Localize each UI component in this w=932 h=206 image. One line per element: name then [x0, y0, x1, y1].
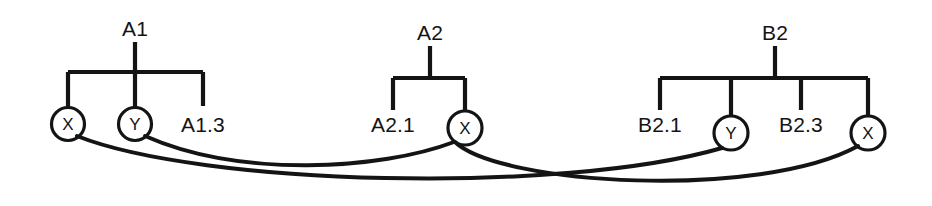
tree-root-label: A2: [417, 21, 443, 44]
tree-group-a2: A2A2.1X: [371, 21, 482, 145]
node-circle-label: Y: [129, 115, 140, 134]
diagram-canvas: A1XYA1.3A2A2.1XB2B2.1YB2.3X: [0, 0, 932, 206]
node-circle-label: X: [62, 115, 73, 134]
node-circle-label: X: [459, 119, 470, 138]
node-circle-label: X: [862, 124, 873, 143]
link-curve-a1-y-to-a2-x[interactable]: [145, 136, 454, 165]
node-circle-label: Y: [725, 124, 736, 143]
tree-group-a1: A1XYA1.3: [52, 17, 226, 141]
trees-layer: A1XYA1.3A2A2.1XB2B2.1YB2.3X: [52, 17, 886, 150]
tree-leaf-label: A1.3: [181, 113, 225, 136]
tree-leaf-label: B2.1: [638, 113, 682, 136]
tree-root-label: A1: [122, 17, 148, 40]
tree-linkage-diagram: A1XYA1.3A2A2.1XB2B2.1YB2.3X: [0, 0, 932, 206]
tree-leaf-label: A2.1: [371, 113, 415, 136]
tree-group-b2: B2B2.1YB2.3X: [638, 21, 885, 150]
tree-leaf-label: B2.3: [779, 113, 823, 136]
tree-root-label: B2: [762, 21, 788, 44]
